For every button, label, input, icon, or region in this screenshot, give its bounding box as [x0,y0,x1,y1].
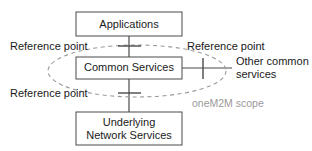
reference-point-label-top-right: Reference point [187,40,265,52]
diagram-canvas: Applications Common Services Underlying … [0,0,312,151]
box-underlying-network-services-label-line2: Network Services [86,129,172,141]
box-applications-label: Applications [99,18,159,30]
reference-point-label-top-left: Reference point [10,40,88,52]
other-common-services-label-line1: Other common [236,55,309,67]
reference-point-label-bottom-left: Reference point [10,87,88,99]
box-underlying-network-services-label-line1: Underlying [103,116,156,128]
onem2m-scope-label: oneM2M scope [192,97,264,109]
other-common-services-label-line2: services [236,68,277,80]
onem2m-architecture-diagram: Applications Common Services Underlying … [0,0,312,151]
box-common-services-label: Common Services [84,61,174,73]
